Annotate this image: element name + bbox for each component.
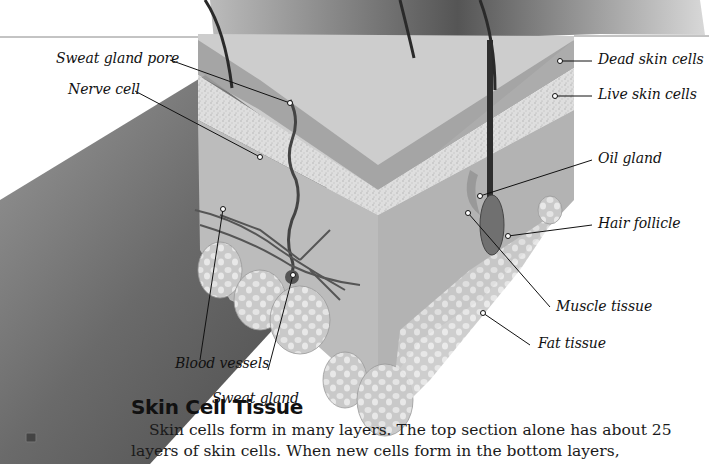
textbook-page: Sweat gland pore Nerve cell Dead skin ce… — [0, 0, 709, 464]
paragraph-text: Skin cells form in many layers. The top … — [131, 420, 701, 462]
skin-diagram-illustration — [0, 0, 709, 464]
label-fat-tissue: Fat tissue — [538, 335, 606, 351]
label-dead-skin-cells: Dead skin cells — [598, 51, 704, 67]
label-sweat-gland-pore: Sweat gland pore — [56, 50, 179, 66]
label-muscle-tissue: Muscle tissue — [556, 298, 652, 314]
label-live-skin-cells: Live skin cells — [598, 86, 697, 102]
label-hair-follicle: Hair follicle — [598, 215, 681, 231]
section-heading: Skin Cell Tissue — [131, 395, 303, 419]
label-blood-vessels: Blood vessels — [175, 355, 269, 371]
body-paragraph: Skin cells form in many layers. The top … — [131, 420, 701, 462]
page-marker — [26, 433, 36, 442]
label-oil-gland: Oil gland — [598, 150, 662, 166]
label-nerve-cell: Nerve cell — [68, 81, 140, 97]
